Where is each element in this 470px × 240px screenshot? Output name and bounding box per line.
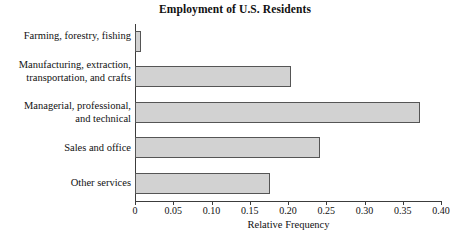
bar-row <box>135 24 441 59</box>
x-tick-label: 0 <box>115 205 155 216</box>
bar-other-services <box>135 173 270 194</box>
bar-row <box>135 130 441 165</box>
plot-area <box>135 24 441 201</box>
x-tick-label: 0.05 <box>153 205 193 216</box>
x-tick-label: 0.30 <box>345 205 385 216</box>
x-tick-label: 0.35 <box>383 205 423 216</box>
bar-row <box>135 166 441 201</box>
category-label-managerial-professional-and-technical: Managerial, professional, and technical <box>0 100 131 125</box>
category-label-other-services: Other services <box>0 177 131 190</box>
chart-screenshot: Employment of U.S. Residents Farming, fo… <box>0 0 470 240</box>
category-label-manufacturing-extraction-transportation-and-crafts: Manufacturing, extraction, transportatio… <box>0 59 131 84</box>
bar-row <box>135 95 441 130</box>
chart-title: Employment of U.S. Residents <box>0 3 470 15</box>
x-axis-title: Relative Frequency <box>135 219 442 230</box>
x-tick-label: 0.20 <box>268 205 308 216</box>
bar-farming-forestry-fishing <box>135 31 141 52</box>
category-label-sales-and-office: Sales and office <box>0 142 131 155</box>
bar-managerial-professional-and-technical <box>135 102 420 123</box>
bar-sales-and-office <box>135 137 320 158</box>
bar-row <box>135 59 441 94</box>
x-tick-label: 0.15 <box>230 205 270 216</box>
x-tick-label: 0.25 <box>306 205 346 216</box>
bar-manufacturing-extraction-transportation-and-crafts <box>135 66 291 87</box>
category-label-farming-forestry-fishing: Farming, forestry, fishing <box>0 30 131 43</box>
x-tick-label: 0.40 <box>421 205 461 216</box>
x-tick-label: 0.10 <box>192 205 232 216</box>
